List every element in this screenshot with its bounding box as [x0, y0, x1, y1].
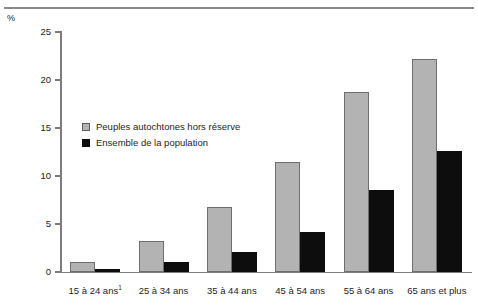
bar	[275, 162, 300, 272]
bar	[95, 269, 120, 272]
legend-item-series-a: Peuples autochtones hors réserve	[82, 120, 240, 134]
bar	[412, 59, 437, 272]
y-axis-tick-label: 10	[21, 171, 51, 181]
header-divider	[4, 7, 474, 9]
y-axis-tick-label-text: 20	[25, 75, 51, 85]
y-axis-tick-label: 0	[21, 267, 51, 277]
chart-legend: Peuples autochtones hors réserve Ensembl…	[82, 120, 240, 152]
y-axis-tick-label-text: 10	[25, 171, 51, 181]
bar	[369, 190, 394, 272]
y-axis-tick-label: 20	[21, 75, 51, 85]
legend-label-series-b: Ensemble de la population	[96, 138, 208, 148]
bar	[70, 262, 95, 272]
bar	[437, 151, 462, 272]
y-axis-tick-label: 5	[21, 219, 51, 229]
legend-swatch-icon-series-b	[82, 139, 90, 147]
y-axis-tick-label-text: 25	[25, 27, 51, 37]
bar	[207, 207, 232, 272]
bar	[344, 92, 369, 272]
x-axis-category-label: 65 ans et plus	[403, 285, 471, 296]
y-axis-tick-label-text: 15	[25, 123, 51, 133]
x-axis-category-label: 35 à 44 ans	[198, 285, 266, 296]
bar	[139, 241, 164, 272]
y-axis-tick-label-text: 0	[25, 267, 51, 277]
bar	[232, 252, 257, 272]
x-axis-category-label: 25 à 34 ans	[129, 285, 197, 296]
x-axis-category-label: 55 à 64 ans	[334, 285, 402, 296]
y-axis-tick-label-text: 5	[25, 219, 51, 229]
x-axis-category-label: 15 à 24 ans1	[61, 285, 129, 296]
y-axis-tick-label: 25	[21, 27, 51, 37]
chart-figure: % 0510152025 15 à 24 ans125 à 34 ans35 à…	[0, 0, 478, 305]
x-axis-category-label: 45 à 54 ans	[266, 285, 334, 296]
legend-swatch-icon-series-a	[82, 123, 90, 131]
y-axis-tick-label: 15	[21, 123, 51, 133]
y-axis-unit-label: %	[7, 13, 15, 23]
plot-area	[61, 32, 471, 272]
bar	[164, 262, 189, 272]
bar	[300, 232, 325, 272]
legend-label-series-a: Peuples autochtones hors réserve	[96, 122, 240, 132]
legend-item-series-b: Ensemble de la population	[82, 136, 240, 150]
